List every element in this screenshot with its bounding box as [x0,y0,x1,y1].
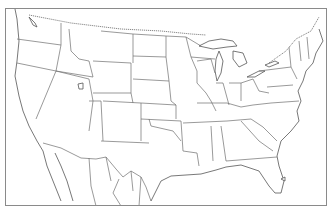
puget-sound [29,17,37,27]
us-outline-map [6,9,327,206]
lake-ontario [265,61,279,67]
mexico-border [43,143,151,201]
lake-erie [247,71,265,77]
state-lines-east [183,37,309,161]
lake-huron [233,51,247,67]
mexico-state-lines [89,157,141,206]
state-lines-central [131,34,199,166]
gulf-coast [151,156,284,201]
lake-superior [199,39,237,49]
pacific-coast [15,9,61,201]
map-frame [5,8,327,206]
lake-okeechobee [281,177,285,181]
lake-michigan [215,51,223,81]
canada-border-east [269,17,319,63]
great-salt-lake [78,83,83,89]
canada-border [29,15,206,35]
